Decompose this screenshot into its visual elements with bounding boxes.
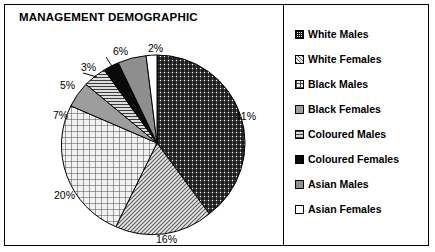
slice-label-black-males: 20%	[54, 189, 75, 201]
legend-label-black-females: Black Females	[308, 104, 381, 115]
legend-item-coloured-females[interactable]: Coloured Females	[295, 147, 425, 172]
legend-item-black-males[interactable]: Black Males	[295, 72, 425, 97]
legend-label-asian-males: Asian Males	[308, 179, 369, 190]
legend-item-asian-males[interactable]: Asian Males	[295, 172, 425, 197]
slice-label-asian-males: 6%	[113, 45, 128, 57]
pie-chart-svg	[5, 5, 283, 245]
legend-swatch-asian-females	[295, 205, 304, 214]
slice-label-black-females: 7%	[53, 109, 68, 121]
legend-item-white-males[interactable]: White Males	[295, 22, 425, 47]
chart-legend: White Males White Females Black Males Bl…	[295, 22, 425, 222]
slice-label-white-males: 41%	[235, 110, 256, 122]
legend-swatch-coloured-females	[295, 155, 304, 164]
pie-chart-plot-area: 41% 16% 20% 7% 5% 3% 6% 2%	[5, 5, 283, 245]
legend-label-black-males: Black Males	[308, 79, 368, 90]
leader-line-coloured-males	[83, 73, 97, 77]
legend-label-coloured-females: Coloured Females	[308, 154, 399, 165]
slice-label-coloured-males: 5%	[60, 79, 75, 91]
legend-divider	[283, 5, 284, 245]
slice-label-white-females: 16%	[156, 233, 177, 245]
legend-label-coloured-males: Coloured Males	[308, 129, 386, 140]
legend-swatch-coloured-males	[295, 130, 304, 139]
legend-swatch-asian-males	[295, 180, 304, 189]
legend-swatch-black-females	[295, 105, 304, 114]
slice-label-coloured-females: 3%	[81, 61, 96, 73]
legend-label-asian-females: Asian Females	[308, 204, 382, 215]
legend-item-asian-females[interactable]: Asian Females	[295, 197, 425, 222]
legend-label-white-females: White Females	[308, 54, 382, 65]
chart-frame: MANAGEMENT DEMOGRAPHIC	[4, 4, 429, 246]
legend-swatch-white-females	[295, 55, 304, 64]
legend-item-black-females[interactable]: Black Females	[295, 97, 425, 122]
legend-label-white-males: White Males	[308, 29, 369, 40]
slice-label-asian-females: 2%	[148, 42, 163, 54]
legend-swatch-black-males	[295, 80, 304, 89]
legend-item-white-females[interactable]: White Females	[295, 47, 425, 72]
legend-swatch-white-males	[295, 30, 304, 39]
legend-item-coloured-males[interactable]: Coloured Males	[295, 122, 425, 147]
